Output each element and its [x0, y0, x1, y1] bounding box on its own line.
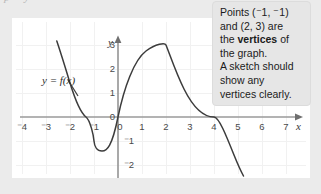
y-tick-origin: 0 — [101, 112, 115, 122]
y-axis-letter: y — [108, 36, 113, 48]
curve-label: y = f(x) — [42, 74, 75, 86]
callout-line-7: vertices clearly. — [220, 88, 305, 102]
x-tick-5: 5 — [229, 122, 247, 132]
x-tick-4: 4 — [205, 122, 223, 132]
callout-line-5: A sketch should — [220, 60, 305, 74]
x-tick--1: ⁻1 — [85, 122, 103, 132]
x-tick-0: 0 — [111, 122, 129, 132]
x-tick-1: 1 — [133, 122, 151, 132]
callout-line-2: and (2, 3) are — [220, 20, 305, 34]
y-axis-arrowhead — [115, 36, 122, 44]
callout-line-4: the graph. — [220, 47, 305, 61]
x-tick-3: 3 — [181, 122, 199, 132]
x-tick--2: ⁻2 — [61, 122, 79, 132]
clipped-text-above: p y — [4, 0, 35, 3]
x-tick-6: 6 — [253, 122, 271, 132]
x-axis-letter: x — [296, 120, 301, 132]
callout-line-1-post: ) — [285, 6, 289, 18]
callout-line-1-coords: ⁻1, ⁻1 — [256, 6, 286, 18]
callout-line-1: Points (⁻1, ⁻1) — [220, 6, 305, 20]
x-tick--3: ⁻3 — [37, 122, 55, 132]
callout-line-3-post: of — [277, 33, 289, 45]
y-tick--1: ⁻1 — [120, 136, 134, 146]
y-tick-1: 1 — [101, 88, 115, 98]
callout-line-6: show any — [220, 74, 305, 88]
vertices-callout: Points (⁻1, ⁻1) and (2, 3) are the verti… — [212, 1, 311, 106]
callout-line-3-pre: the — [220, 33, 238, 45]
x-tick-2: 2 — [157, 122, 175, 132]
y-tick--2: ⁻2 — [120, 160, 134, 170]
callout-vertices-keyword: vertices — [238, 33, 278, 45]
y-tick-2: 2 — [101, 64, 115, 74]
x-tick-7: 7 — [277, 122, 295, 132]
callout-line-3: the vertices of — [220, 33, 305, 47]
callout-line-1-pre: Points ( — [220, 6, 256, 18]
x-tick--4: ⁻4 — [13, 122, 31, 132]
